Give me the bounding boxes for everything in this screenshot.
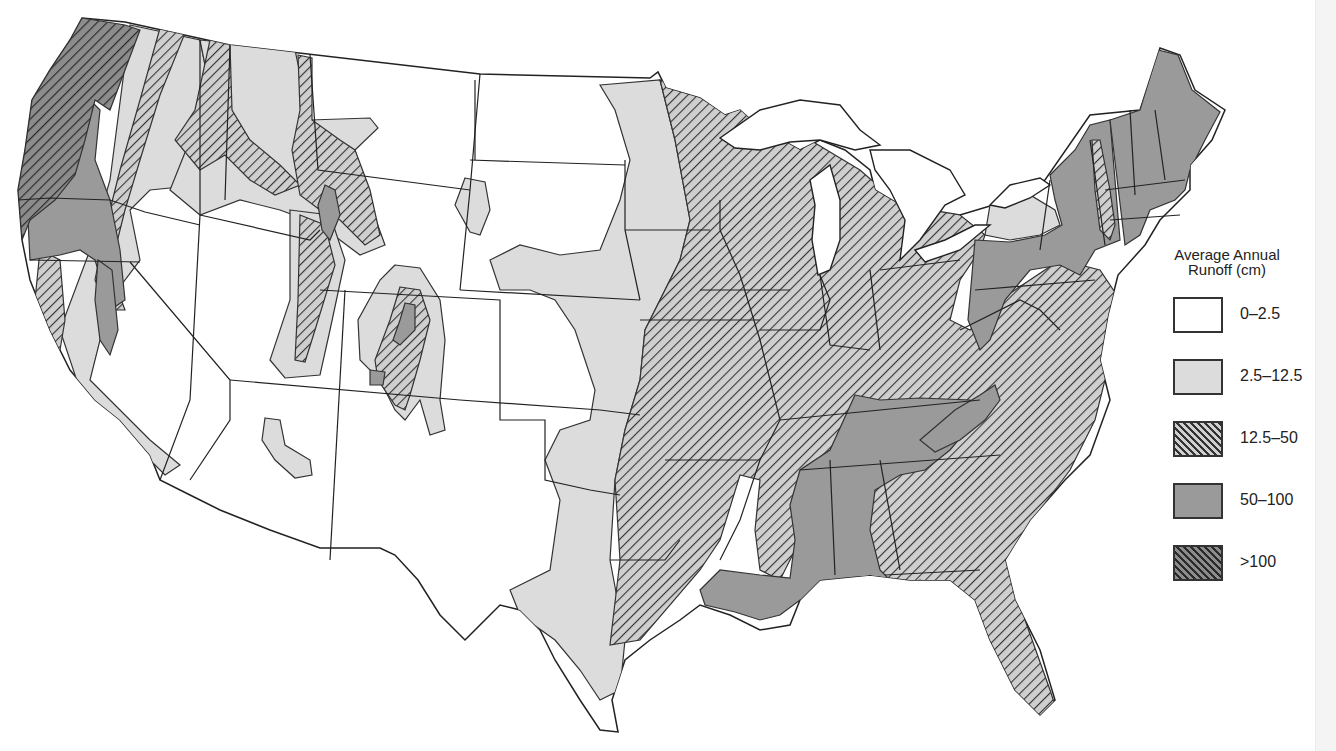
lake-superior — [720, 100, 880, 150]
zone-medium-co-core2 — [370, 370, 385, 385]
legend: Average Annual Runoff (cm) 0–2.5 2.5–12.… — [1168, 247, 1336, 277]
us-runoff-map — [0, 0, 1336, 751]
page-edge — [1315, 0, 1336, 751]
legend-swatch-dark-hatched — [1173, 545, 1223, 581]
legend-title: Average Annual Runoff (cm) — [1168, 247, 1286, 277]
legend-swatch-hatched — [1173, 421, 1223, 457]
legend-swatch-white — [1173, 297, 1223, 333]
legend-swatch-medium-gray — [1173, 483, 1223, 519]
legend-swatch-light-gray — [1173, 359, 1223, 395]
